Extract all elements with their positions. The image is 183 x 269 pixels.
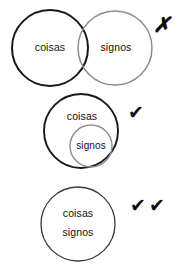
coisas-label-identical: coisas: [63, 207, 93, 219]
check-mark-icon-second: ✔: [149, 194, 165, 216]
coisas-signos-circle-identical: [41, 187, 115, 261]
signos-label-nested: signos: [76, 140, 106, 151]
cross-mark-icon: ✗: [153, 13, 172, 37]
diagram-canvas: coisas signos ✗ coisas signos ✔ coisas s…: [0, 0, 183, 269]
check-mark-icon: ✔: [128, 101, 144, 123]
signos-label-overlapping: signos: [101, 41, 132, 53]
set-relation-diagram: coisas signos ✗ coisas signos ✔ coisas s…: [0, 0, 183, 269]
signos-label-identical: signos: [63, 226, 94, 238]
coisas-label-overlapping: coisas: [35, 41, 65, 53]
coisas-label-nested: coisas: [67, 110, 97, 122]
row-overlapping-group: coisas signos ✗: [12, 10, 172, 86]
row-nested-group: coisas signos ✔: [44, 94, 144, 168]
row-identical-group: coisas signos ✔ ✔: [41, 187, 165, 261]
coisas-circle-nested: [44, 94, 118, 168]
check-mark-icon-first: ✔: [130, 194, 146, 216]
